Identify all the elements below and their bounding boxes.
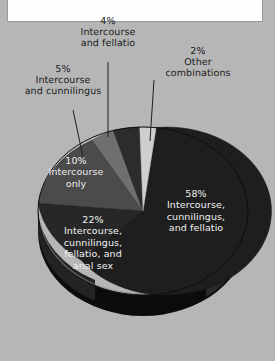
callout-other-combinations: 2% Other combinations: [150, 46, 246, 80]
slice-label-intercourse-only: 10% Intercourse only: [33, 155, 119, 189]
callout-intercourse-and-fellatio: 4% Intercourse and fellatio: [52, 16, 164, 50]
slice-label-intercourse-cunnilingus-fellatio: 58% Intercourse, cunnilingus, and fellat…: [150, 188, 242, 234]
pie-chart-figure: 4% Intercourse and fellatio 2% Other com…: [0, 0, 275, 361]
slice-label-intercourse-cunnilingus-fellatio-anal: 22% Intercourse, cunnilingus, fellatio, …: [40, 214, 146, 271]
callout-intercourse-and-cunnilingus: 5% Intercourse and cunnilingus: [2, 64, 124, 98]
